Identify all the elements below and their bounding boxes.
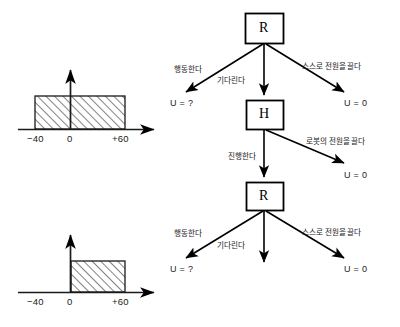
edge-label-h1-right: 로봇의 전원을 끌다 <box>306 138 365 146</box>
edge-label-r1-left: 행동한다 <box>174 66 202 74</box>
edge-label-r1-right: 스스로 전원을 끌다 <box>302 63 361 71</box>
outcome-r1-right-utility: U = 0 <box>344 99 367 108</box>
chart-top-tick-+60: +60 <box>112 134 129 144</box>
edge-label-r1-mid: 기다린다 <box>217 77 245 85</box>
outcome-r1-left-utility: U = ? <box>170 99 193 108</box>
edge-h1-right <box>266 130 344 163</box>
figure-canvas: −40 0 +60 −40 0 +60 R H R 행동한다 기다린다 스스로 … <box>0 0 400 327</box>
chart-top <box>18 70 154 130</box>
chart-top-tick--40: −40 <box>27 134 44 144</box>
outcome-r2-right-utility: U = 0 <box>344 265 367 274</box>
chart-top-block <box>35 96 125 129</box>
edge-label-r2-left: 행동한다 <box>174 230 202 238</box>
edge-label-r2-mid: 기다린다 <box>217 242 245 250</box>
edge-label-h1-mid: 진행한다 <box>228 153 256 161</box>
node-label-r1: R <box>259 21 268 35</box>
diagram-svg <box>0 0 400 327</box>
chart-top-tick-0: 0 <box>67 134 72 144</box>
chart-bottom-tick-+60: +60 <box>112 297 129 307</box>
chart-bottom <box>18 235 154 293</box>
chart-bottom-block <box>71 261 125 292</box>
chart-bottom-tick-0: 0 <box>67 297 72 307</box>
edge-label-r2-right: 스스로 전원을 끌다 <box>302 229 361 237</box>
outcome-h1-right-utility: U = 0 <box>344 171 367 180</box>
chart-bottom-tick--40: −40 <box>27 297 44 307</box>
outcome-r2-left-utility: U = ? <box>170 265 193 274</box>
node-label-r2: R <box>259 189 268 203</box>
node-label-h1: H <box>259 107 269 121</box>
